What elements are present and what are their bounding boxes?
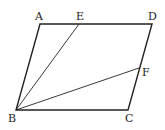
segment-be (16, 24, 79, 110)
label-f: F (142, 66, 150, 79)
segment-bf (16, 68, 139, 110)
label-d: D (148, 10, 157, 23)
parallelogram-abcd (16, 24, 152, 110)
label-e: E (76, 10, 84, 23)
geometry-diagram: A E D F B C (0, 0, 165, 130)
label-a: A (34, 10, 44, 23)
label-c: C (125, 112, 133, 125)
label-b: B (8, 112, 16, 125)
